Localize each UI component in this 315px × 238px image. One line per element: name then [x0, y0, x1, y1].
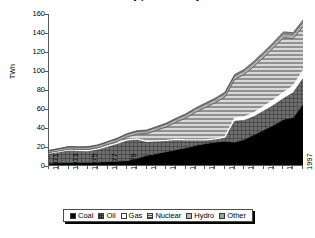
x-tick-mark [302, 166, 303, 169]
chart-legend: CoalOilGasNuclearHydroOther [63, 209, 253, 222]
legend-label: Gas [129, 212, 143, 220]
y-tick-mark [44, 166, 48, 167]
x-tick-mark [273, 166, 274, 169]
y-axis-ticks: 160140120100806040200 [20, 0, 45, 180]
legend-label: Hydro [194, 212, 214, 220]
x-tick-mark [58, 166, 59, 169]
legend-item-other[interactable]: Other [219, 212, 246, 220]
y-tick-mark [44, 128, 48, 129]
x-tick-mark [234, 166, 235, 169]
x-tick-mark [68, 166, 69, 169]
x-tick-mark [243, 166, 244, 169]
x-tick-mark [292, 166, 293, 169]
y-tick-mark [44, 33, 48, 34]
y-tick-label: 40 [21, 124, 45, 132]
y-tick-label: 140 [21, 29, 45, 37]
legend-swatch-icon [186, 213, 192, 219]
x-tick-mark [146, 166, 147, 169]
x-tick-mark [185, 166, 186, 169]
x-tick-mark [107, 166, 108, 169]
legend-label: Other [227, 212, 246, 220]
legend-label: Oil [106, 212, 115, 220]
x-tick-mark [87, 166, 88, 169]
y-tick-label: 80 [21, 86, 45, 94]
x-tick-mark [263, 166, 264, 169]
x-tick-mark [195, 166, 196, 169]
y-axis-title: TWh [9, 64, 16, 79]
legend-swatch-icon [70, 213, 76, 219]
x-tick-mark [214, 166, 215, 169]
x-tick-mark [126, 166, 127, 169]
x-tick-mark [224, 166, 225, 169]
legend-swatch-icon [98, 213, 104, 219]
y-tick-mark [44, 14, 48, 15]
x-tick-mark [48, 166, 49, 169]
legend-item-gas[interactable]: Gas [121, 212, 143, 220]
x-tick-mark [77, 166, 78, 169]
plot-area [48, 14, 303, 166]
legend-item-coal[interactable]: Coal [70, 212, 93, 220]
x-tick-mark [204, 166, 205, 169]
legend-label: Coal [78, 212, 93, 220]
legend-label: Nuclear [155, 212, 181, 220]
x-tick-mark [97, 166, 98, 169]
y-tick-mark [44, 71, 48, 72]
legend-item-nuclear[interactable]: Nuclear [147, 212, 181, 220]
x-tick-mark [253, 166, 254, 169]
legend-swatch-icon [121, 213, 127, 219]
legend-item-oil[interactable]: Oil [98, 212, 115, 220]
legend-swatch-icon [147, 213, 153, 219]
chart-title: Electricity production by fuel [0, 0, 315, 1]
legend-item-hydro[interactable]: Hydro [186, 212, 214, 220]
stacked-area-series [49, 14, 303, 166]
x-axis-ticks: 1971197319751977197919811983198519871989… [0, 166, 315, 206]
y-tick-mark [44, 90, 48, 91]
y-tick-mark [44, 109, 48, 110]
legend-swatch-icon [219, 213, 225, 219]
y-tick-label: 100 [21, 67, 45, 75]
x-tick-mark [282, 166, 283, 169]
x-tick-label: 1997 [305, 153, 314, 170]
y-tick-label: 120 [21, 48, 45, 56]
x-tick-mark [155, 166, 156, 169]
x-tick-mark [165, 166, 166, 169]
y-tick-label: 160 [21, 10, 45, 18]
y-tick-label: 20 [21, 143, 45, 151]
chart-figure: Electricity production by fuel TWh 16014… [0, 0, 315, 238]
x-tick-mark [116, 166, 117, 169]
y-tick-mark [44, 52, 48, 53]
x-tick-mark [136, 166, 137, 169]
x-tick-mark [175, 166, 176, 169]
y-tick-mark [44, 147, 48, 148]
y-tick-label: 60 [21, 105, 45, 113]
